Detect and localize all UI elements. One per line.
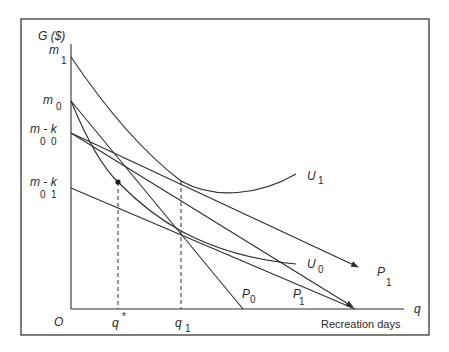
tick-m0-k1-main: m - k (30, 175, 58, 189)
tick-q1-sub: 1 (185, 323, 191, 334)
budget-line-m0-k1 (71, 188, 355, 309)
origin-label: O (54, 315, 63, 329)
p0-label-sub: 0 (250, 294, 256, 305)
indifference-curve-u1 (71, 57, 296, 193)
tick-m1-main: m (49, 43, 59, 57)
p0-label-main: P (242, 287, 250, 301)
tick-m1-sub: 1 (61, 55, 67, 66)
tick-q1-main: q (175, 316, 182, 330)
tick-m0-sub: 0 (56, 101, 62, 112)
budget-line-p0 (71, 101, 243, 309)
budget-line-p1-lower-arrow (71, 133, 353, 307)
tick-q-star-sup: * (122, 311, 126, 322)
equilibrium-point (115, 179, 120, 184)
p1-arrow-label-main: P (377, 265, 385, 279)
tick-m0-k0-main: m - k (30, 122, 58, 136)
u0-label-sub: 0 (318, 264, 324, 275)
u1-label-main: U (307, 169, 316, 183)
u0-label-main: U (307, 257, 316, 271)
tick-q-star-main: q (112, 316, 119, 330)
tick-m0-main: m (43, 93, 53, 107)
u1-label-sub: 1 (318, 175, 324, 186)
y-axis-label: G ($) (38, 29, 65, 43)
x-axis-label: q (414, 302, 421, 316)
p1-axis-label-sub: 1 (299, 296, 305, 307)
p1-arrow-label-sub: 1 (386, 277, 392, 288)
diagram-canvas: G ($) m 1 m 0 m - k 0 0 m - k 0 1 O q * … (0, 0, 449, 352)
tick-m0-k1-sub: 0 1 (40, 189, 57, 200)
x-axis-description: Recreation days (321, 318, 401, 330)
budget-line-p1-upper-arrow (71, 133, 358, 267)
tick-m0-k0-sub: 0 0 (40, 136, 57, 147)
